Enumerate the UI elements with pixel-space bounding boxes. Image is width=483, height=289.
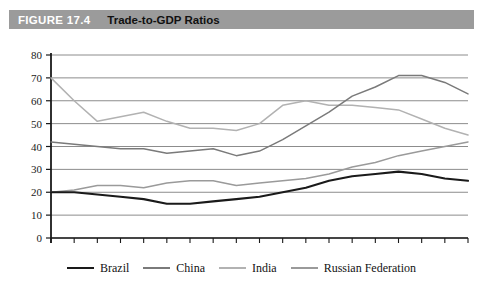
series-line-brazil: [51, 172, 468, 204]
line-chart-svg: 01020304050607080 19931997200120052009: [0, 38, 483, 248]
y-axis-tick-labels: 01020304050607080: [31, 49, 43, 244]
legend-label: Brazil: [100, 261, 129, 276]
figure-container: FIGURE 17.4 Trade-to-GDP Ratios 01020304…: [0, 0, 483, 289]
legend-label: Russian Federation: [324, 261, 416, 276]
y-tick-label: 30: [31, 163, 43, 175]
x-axis-tick-marks: [51, 238, 468, 243]
series-line-russian-federation: [51, 142, 468, 192]
x-axis-tick-labels: 19931997200120052009: [40, 246, 433, 248]
legend-label: India: [252, 261, 277, 276]
chart-plot-area: 01020304050607080 19931997200120052009: [0, 38, 483, 248]
legend-item-russian-federation[interactable]: Russian Federation: [291, 261, 416, 276]
y-tick-label: 80: [31, 49, 43, 61]
figure-number-label: FIGURE 17.4: [18, 14, 90, 26]
x-tick-label: 1993: [40, 246, 63, 248]
legend-label: China: [176, 261, 205, 276]
legend-swatch-icon: [143, 267, 170, 269]
y-tick-label: 10: [31, 209, 43, 221]
series-line-china: [51, 76, 468, 156]
y-tick-label: 20: [31, 186, 43, 198]
y-tick-label: 70: [31, 72, 43, 84]
y-tick-label: 60: [31, 95, 43, 107]
figure-title-label: Trade-to-GDP Ratios: [107, 14, 219, 26]
chart-legend: BrazilChinaIndiaRussian Federation: [0, 258, 483, 278]
legend-item-brazil[interactable]: Brazil: [67, 261, 129, 276]
legend-item-china[interactable]: China: [143, 261, 205, 276]
y-tick-label: 40: [31, 141, 43, 153]
x-tick-label: 2005: [318, 246, 341, 248]
legend-swatch-icon: [67, 267, 94, 269]
data-series-lines: [51, 76, 468, 204]
y-tick-label: 0: [37, 232, 43, 244]
figure-header-bar: FIGURE 17.4 Trade-to-GDP Ratios: [9, 10, 474, 29]
legend-swatch-icon: [291, 267, 318, 269]
legend-swatch-icon: [219, 267, 246, 269]
legend-item-india[interactable]: India: [219, 261, 277, 276]
grid-lines: [51, 55, 468, 238]
x-tick-label: 1997: [133, 246, 156, 248]
x-tick-label: 2009: [411, 246, 434, 248]
x-tick-label: 2001: [225, 246, 247, 248]
series-line-india: [51, 78, 468, 135]
y-tick-label: 50: [31, 118, 43, 130]
